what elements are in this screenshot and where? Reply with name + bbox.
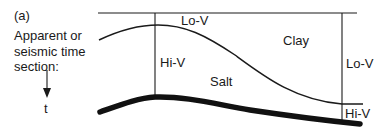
region-label-clay: Clay	[283, 33, 309, 48]
time-arrow-head-icon	[43, 88, 51, 98]
panel-label: (a)	[14, 8, 30, 23]
region-label-salt: Salt	[210, 74, 232, 89]
caption-line-3: section:	[14, 59, 59, 74]
region-label-right-hi-v: Hi-V	[345, 106, 370, 121]
caption-line-1: Apparent or	[14, 28, 82, 43]
caption-line-2: seismic time	[14, 44, 86, 59]
region-label-top-lo-v: Lo-V	[181, 13, 208, 28]
region-label-left-hi-v: Hi-V	[160, 55, 185, 70]
salt-top-horizon	[99, 25, 363, 104]
time-axis-label: t	[44, 101, 48, 116]
region-label-right-lo-v: Lo-V	[346, 56, 373, 71]
